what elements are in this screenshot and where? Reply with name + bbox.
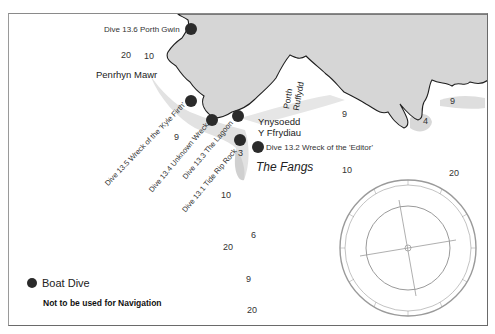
place-ynysoedd-y-ffrydiau: Ynysoedd Y Ffrydiau [258,117,301,139]
land-mass [167,14,488,128]
depth-sounding: 9 [342,110,347,119]
depth-sounding: 20 [449,169,459,178]
depth-sounding: 10 [144,52,154,61]
dive-site-13-1-marker[interactable] [234,134,246,146]
dive-site-13-2-marker[interactable] [252,141,264,153]
depth-sounding: 20 [223,243,233,252]
depth-sounding: 10 [221,191,231,200]
navigation-warning: Not to be used for Navigation [43,298,162,308]
depth-sounding: 6 [251,231,256,240]
dive-site-13-6-marker[interactable] [185,23,197,35]
legend-boat-dive: Boat Dive [42,277,90,289]
depth-sounding: 3 [238,149,243,158]
depth-sounding: 9 [246,275,251,284]
dive-label-13-2: Dive 13.2 Wreck of the 'Editor' [266,144,373,152]
boat-dive-legend-icon [27,278,37,288]
dive-label-13-6: Dive 13.6 Porth Gwin [104,26,180,34]
shallow-area [440,96,485,109]
place-the-fangs: The Fangs [256,160,313,174]
depth-sounding: 9 [174,133,179,142]
depth-sounding: 20 [247,306,257,315]
depth-sounding: 20 [121,51,131,60]
depth-sounding: 10 [342,166,352,175]
compass-rose [340,180,476,316]
dive-site-13-3-marker[interactable] [232,110,244,122]
place-penrhyn-mawr: Penrhyn Mawr [96,70,157,81]
depth-sounding: 4 [423,117,428,126]
depth-sounding: 9 [450,97,455,106]
